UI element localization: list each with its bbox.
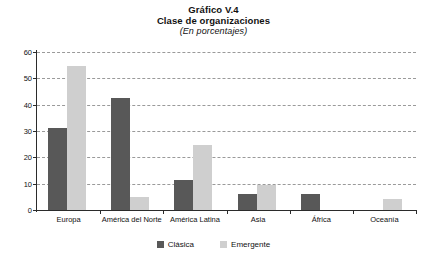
bar-group [353, 52, 416, 210]
x-category-label: Oceanía [370, 215, 398, 224]
bar-group [100, 52, 163, 210]
bar-group [290, 52, 353, 210]
x-tick-mark [416, 210, 417, 214]
chart-units-label: (En porcentajes) [0, 26, 427, 37]
bar-clasica [48, 128, 67, 210]
y-tick-label: 30 [24, 127, 32, 136]
y-tick-label: 10 [24, 179, 32, 188]
x-tick-mark [353, 210, 354, 214]
bar-clasica [111, 98, 130, 210]
legend-swatch-clasica-icon [157, 241, 164, 248]
x-tick-mark [290, 210, 291, 214]
y-tick-label: 60 [24, 48, 32, 57]
legend-label: Emergente [231, 240, 270, 249]
bar-emergente [67, 66, 86, 210]
y-tick-label: 40 [24, 100, 32, 109]
y-tick-label: 50 [24, 74, 32, 83]
y-tick-label: 20 [24, 153, 32, 162]
x-category-label: América Latina [170, 215, 220, 224]
x-tick-mark [163, 210, 164, 214]
legend-label: Clásica [168, 240, 194, 249]
legend-item-emergente[interactable]: Emergente [220, 240, 270, 249]
bar-emergente [193, 145, 212, 210]
x-tick-mark [227, 210, 228, 214]
x-tick-mark [100, 210, 101, 214]
chart-figure: Gráfico V.4 Clase de organizaciones (En … [0, 0, 427, 266]
x-category-label: Europa [56, 215, 80, 224]
bar-clasica [238, 194, 257, 210]
y-tick-label: 0 [28, 206, 32, 215]
legend-item-clasica[interactable]: Clásica [157, 240, 194, 249]
bar-emergente [130, 197, 149, 210]
x-category-label: África [312, 215, 331, 224]
bar-group [37, 52, 100, 210]
bar-emergente [383, 199, 402, 210]
bar-clasica [174, 180, 193, 210]
y-tick-mark [33, 210, 37, 211]
plot-inner: 0102030405060 EuropaAmérica del NorteAmé… [37, 52, 416, 210]
chart-subtitle: Clase de organizaciones [0, 15, 427, 26]
x-category-label: Asia [251, 215, 266, 224]
legend-swatch-emergente-icon [220, 241, 227, 248]
plot-area: 0102030405060 EuropaAmérica del NorteAmé… [37, 52, 416, 210]
chart-title-block: Gráfico V.4 Clase de organizaciones (En … [0, 4, 427, 37]
bar-group [227, 52, 290, 210]
bar-emergente [257, 185, 276, 210]
x-category-label: América del Norte [102, 215, 162, 224]
bar-clasica [301, 194, 320, 210]
chart-legend: ClásicaEmergente [0, 240, 427, 249]
chart-title: Gráfico V.4 [0, 4, 427, 15]
bar-group [163, 52, 226, 210]
